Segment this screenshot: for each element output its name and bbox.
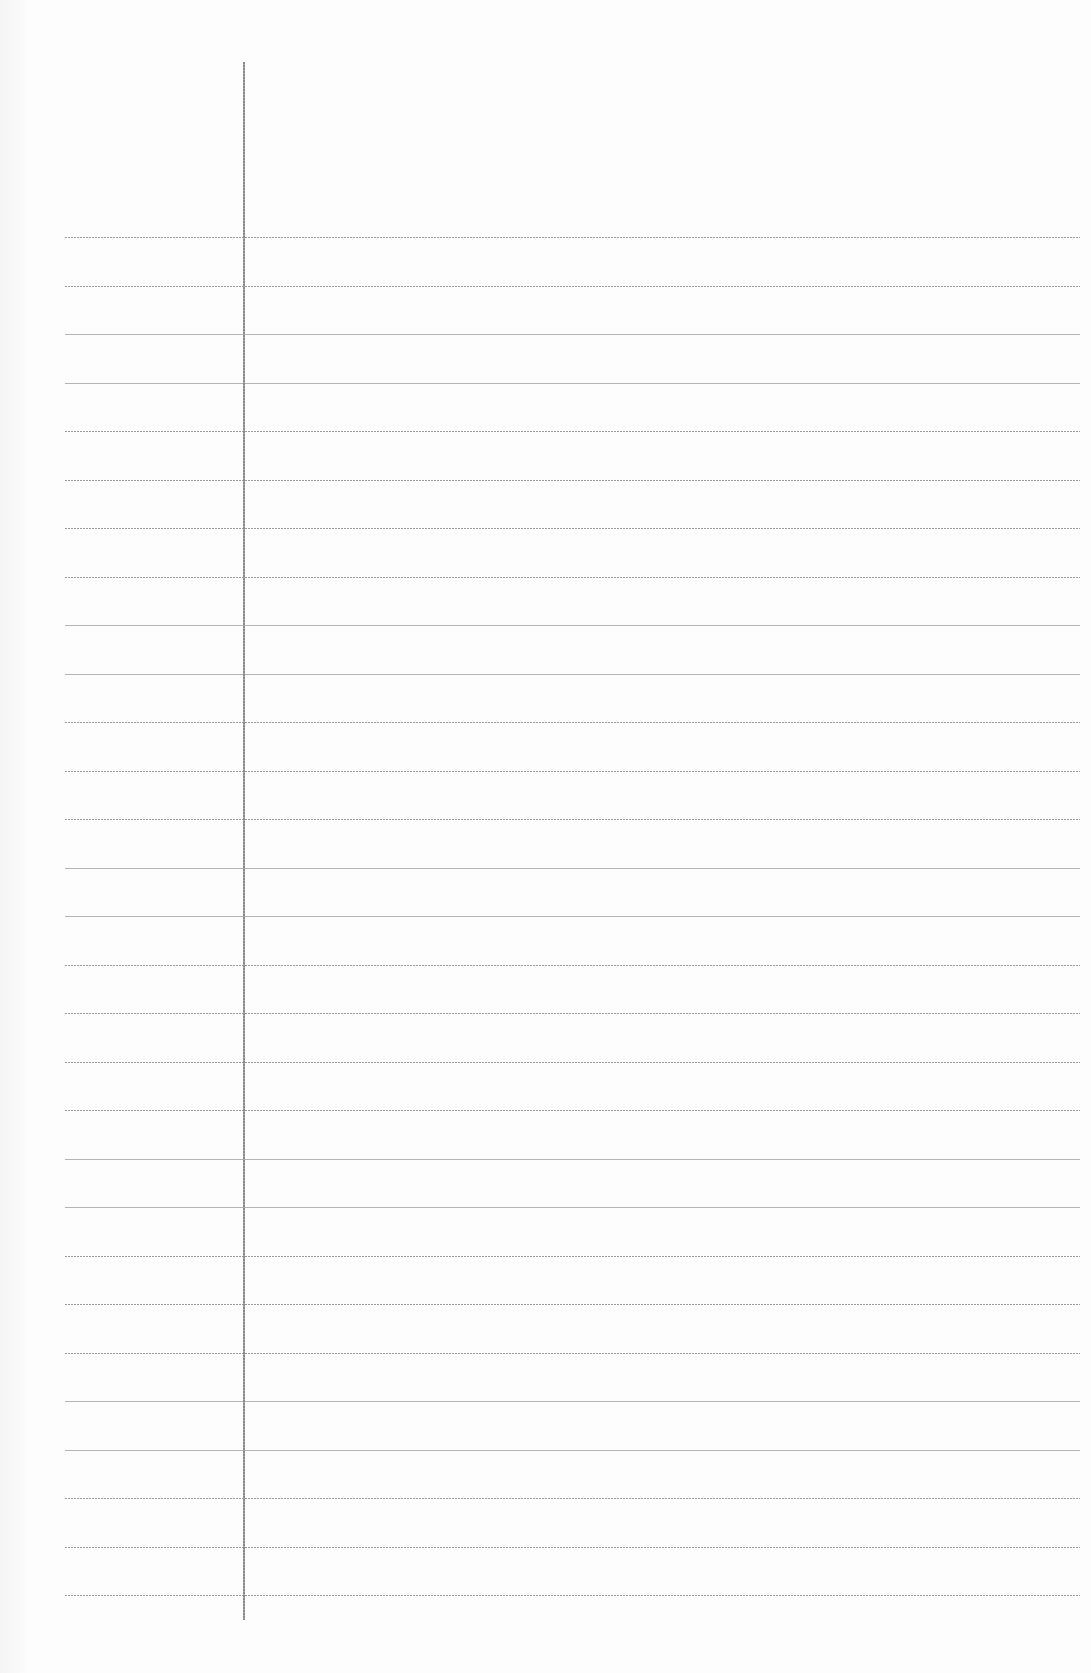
ruled-line: [65, 1256, 1080, 1257]
ruled-line: [65, 480, 1080, 481]
ruled-line: [65, 819, 1080, 820]
ruled-line: [65, 625, 1080, 626]
notebook-page: [0, 0, 1091, 1673]
ruled-line: [65, 334, 1080, 335]
ruled-line: [65, 237, 1080, 238]
ruled-line: [65, 1062, 1080, 1063]
ruled-line: [65, 1159, 1080, 1160]
ruled-line: [65, 1498, 1080, 1499]
ruled-line: [65, 286, 1080, 287]
page-edge-shadow: [0, 0, 30, 1673]
ruled-line: [65, 916, 1080, 917]
ruled-line: [65, 674, 1080, 675]
ruled-line: [65, 1353, 1080, 1354]
ruled-line: [65, 431, 1080, 432]
ruled-line: [65, 1110, 1080, 1111]
ruled-line: [65, 771, 1080, 772]
ruled-line: [65, 722, 1080, 723]
ruled-line: [65, 577, 1080, 578]
ruled-line: [65, 1013, 1080, 1014]
ruled-line: [65, 1401, 1080, 1402]
ruled-line: [65, 1595, 1080, 1596]
ruled-line: [65, 383, 1080, 384]
ruled-line: [65, 1547, 1080, 1548]
ruled-line: [65, 528, 1080, 529]
ruled-line: [65, 1304, 1080, 1305]
ruled-line: [65, 1207, 1080, 1208]
ruled-line: [65, 1450, 1080, 1451]
margin-line: [243, 62, 245, 1620]
ruled-line: [65, 965, 1080, 966]
ruled-line: [65, 868, 1080, 869]
